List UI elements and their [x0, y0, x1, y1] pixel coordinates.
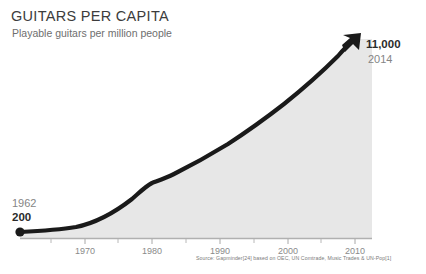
start-year-label: 1962 [12, 197, 36, 209]
x-tick-label-1980: 1980 [142, 246, 162, 256]
x-axis-major-ticks [85, 239, 355, 244]
end-year-label: 2014 [368, 53, 392, 65]
start-value-label: 200 [12, 211, 31, 223]
chart-container: GUITARS PER CAPITA Playable guitars per … [0, 0, 426, 274]
start-point-marker [15, 227, 24, 236]
end-value-label: 11,000 [366, 38, 401, 50]
chart-plot-area: 1970 1980 1990 2000 2010 [0, 0, 426, 274]
source-credit: Source: Gapminder[24] based on OEC, UN C… [196, 255, 391, 261]
area-fill [20, 39, 372, 238]
x-tick-label-1970: 1970 [75, 246, 95, 256]
x-axis-minor-ticks [51, 239, 321, 243]
